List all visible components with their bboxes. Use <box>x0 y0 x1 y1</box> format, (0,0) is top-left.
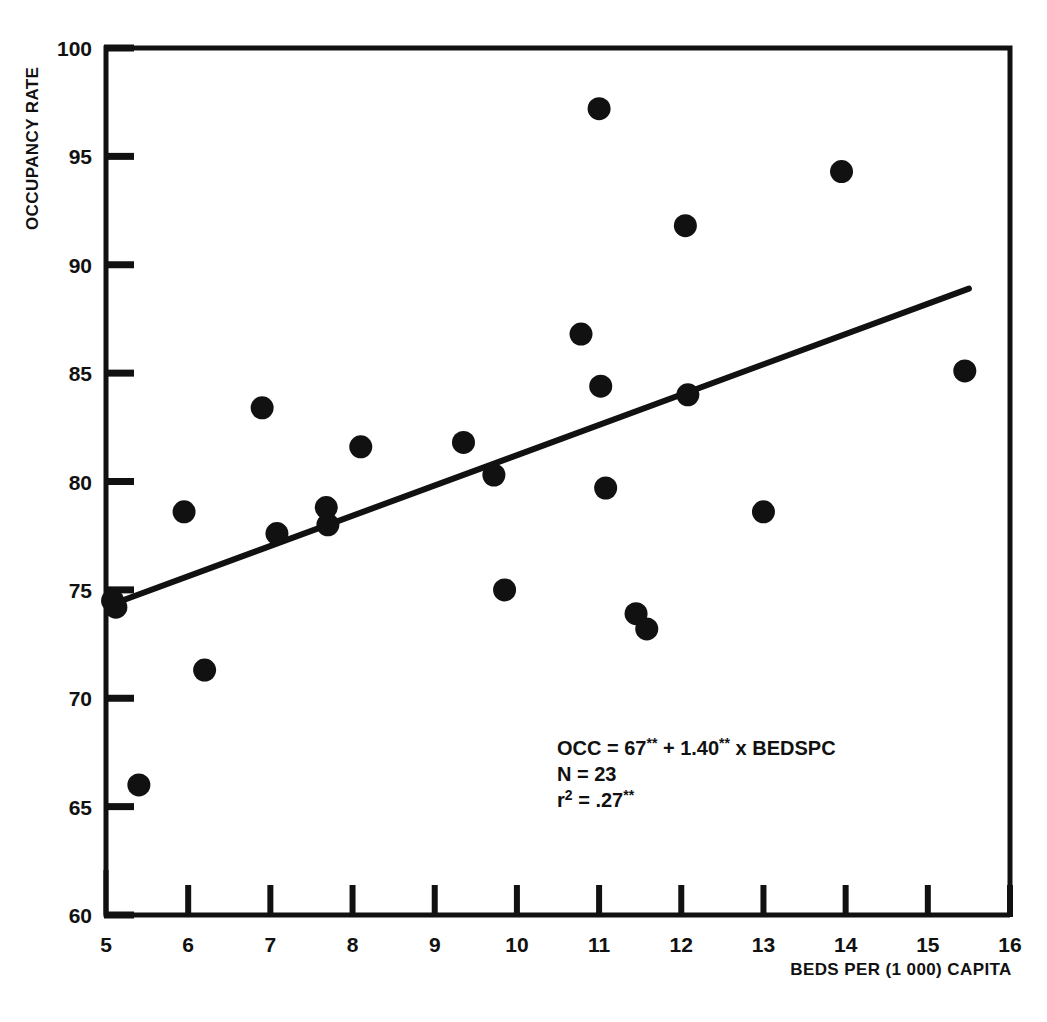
scatter-point <box>588 97 611 120</box>
figure-background <box>0 0 1047 1022</box>
x-axis-tick-label: 5 <box>100 933 112 956</box>
scatter-point <box>265 522 288 545</box>
scatter-point <box>482 463 505 486</box>
scatter-point <box>570 323 593 346</box>
annotation-r-star: ** <box>623 787 634 803</box>
scatter-point <box>594 477 617 500</box>
annotation-equation-line: OCC = 67** + 1.40** x BEDSPC <box>557 735 836 759</box>
annotation-r-exponent: 2 <box>565 787 573 803</box>
y-axis-tick-label: 70 <box>69 687 92 710</box>
y-axis-tick-label: 90 <box>69 254 92 277</box>
x-axis-tick-label: 13 <box>752 933 775 956</box>
scatter-point <box>452 431 475 454</box>
scatter-point <box>635 617 658 640</box>
scatter-point <box>173 500 196 523</box>
x-axis-tick-label: 11 <box>588 933 611 956</box>
scatter-point <box>493 578 516 601</box>
y-axis-tick-label: 95 <box>69 145 93 168</box>
x-axis-tick-label: 14 <box>834 933 858 956</box>
scatter-point <box>193 659 216 682</box>
scatter-plot-figure: 6065707580859095100 5678910111213141516 … <box>0 0 1047 1022</box>
y-axis-title: OCCUPANCY RATE <box>23 67 42 230</box>
x-axis-tick-label: 12 <box>670 933 693 956</box>
y-axis-tick-label: 85 <box>69 362 93 385</box>
annotation-equation-star2: ** <box>719 735 730 751</box>
scatter-point <box>349 435 372 458</box>
annotation-equation-prefix: OCC = 67 <box>557 737 646 759</box>
x-axis-tick-label: 9 <box>429 933 441 956</box>
x-axis-tick-label: 10 <box>505 933 528 956</box>
y-axis-tick-label: 100 <box>57 37 92 60</box>
scatter-point <box>674 214 697 237</box>
annotation-r-value: = .27 <box>573 789 624 811</box>
x-axis-tick-label: 8 <box>347 933 359 956</box>
x-axis-title: BEDS PER (1 000) CAPITA <box>790 960 1011 979</box>
x-axis-tick-label: 16 <box>998 933 1021 956</box>
annotation-sample-size: N = 23 <box>557 763 616 785</box>
x-axis-tick-label: 6 <box>182 933 194 956</box>
scatter-point <box>316 513 339 536</box>
y-axis-tick-label: 75 <box>69 579 93 602</box>
y-axis-tick-label: 65 <box>69 796 93 819</box>
x-axis-tick-label: 7 <box>265 933 277 956</box>
scatter-point <box>830 160 853 183</box>
scatter-point <box>752 500 775 523</box>
scatter-point <box>676 383 699 406</box>
y-axis-tick-label: 80 <box>69 471 92 494</box>
annotation-equation-mid: + 1.40 <box>657 737 719 759</box>
annotation-equation-star1: ** <box>646 735 657 751</box>
chart-canvas: 6065707580859095100 5678910111213141516 … <box>0 0 1047 1022</box>
scatter-point <box>127 773 150 796</box>
scatter-point <box>104 596 127 619</box>
scatter-point <box>589 375 612 398</box>
scatter-point <box>953 359 976 382</box>
annotation-equation-suffix: x BEDSPC <box>730 737 836 759</box>
annotation-r-symbol: r <box>557 789 565 811</box>
scatter-point <box>251 396 274 419</box>
x-axis-tick-label: 15 <box>916 933 940 956</box>
y-axis-tick-label: 60 <box>69 904 92 927</box>
